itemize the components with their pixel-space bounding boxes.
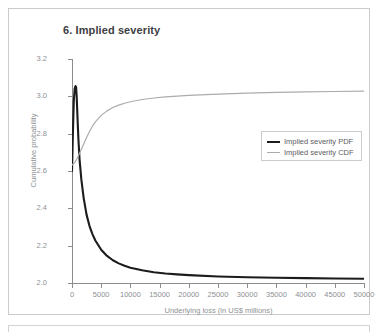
x-tick-label: 35000 xyxy=(266,290,287,299)
page-title: 6. Implied severity xyxy=(63,24,160,36)
x-tick-mark xyxy=(276,284,277,288)
next-panel-edge xyxy=(8,325,370,332)
x-tick-mark xyxy=(189,284,190,288)
x-tick-label: 5000 xyxy=(93,290,110,299)
x-tick-mark xyxy=(364,284,365,288)
x-tick-label: 45000 xyxy=(324,290,345,299)
chart-panel: 6. Implied severity 2.02.22.42.62.83.03.… xyxy=(8,8,370,315)
y-tick-label: 2.8 xyxy=(37,129,47,138)
x-tick-mark xyxy=(72,284,73,288)
plot-area xyxy=(72,59,364,283)
x-tick-mark xyxy=(160,284,161,288)
legend-item-pdf: Implied severity PDF xyxy=(267,136,356,147)
x-tick-label: 10000 xyxy=(120,290,141,299)
x-tick-mark xyxy=(335,284,336,288)
x-tick-mark xyxy=(101,284,102,288)
x-tick-mark xyxy=(218,284,219,288)
y-tick-label: 2.4 xyxy=(37,203,47,212)
legend-line-icon-cdf xyxy=(267,152,280,153)
y-tick-label: 3.0 xyxy=(37,91,47,100)
x-axis-label: Underlying loss (in US$ millions) xyxy=(72,306,365,315)
x-tick-mark xyxy=(306,284,307,288)
series-line xyxy=(72,86,364,279)
y-axis-label: Cumulative probability xyxy=(29,86,38,216)
y-tick-label: 2.2 xyxy=(37,241,47,250)
y-tick-label: 2.6 xyxy=(37,166,47,175)
x-tick-label: 50000 xyxy=(354,290,375,299)
x-tick-label: 20000 xyxy=(178,290,199,299)
legend-line-icon-pdf xyxy=(267,141,280,143)
y-tick-label: 2.0 xyxy=(37,278,47,287)
series-lines xyxy=(72,59,364,283)
x-tick-label: 30000 xyxy=(237,290,258,299)
legend-item-cdf: Implied severity CDF xyxy=(267,147,356,158)
x-tick-label: 25000 xyxy=(208,290,229,299)
legend-label-pdf: Implied severity PDF xyxy=(284,137,353,146)
x-tick-label: 0 xyxy=(70,290,74,299)
x-tick-label: 15000 xyxy=(149,290,170,299)
y-tick-label: 3.2 xyxy=(37,54,47,63)
x-tick-mark xyxy=(247,284,248,288)
x-tick-mark xyxy=(130,284,131,288)
chart-legend: Implied severity PDF Implied severity CD… xyxy=(261,131,362,161)
legend-label-cdf: Implied severity CDF xyxy=(284,148,354,157)
x-tick-label: 40000 xyxy=(295,290,316,299)
